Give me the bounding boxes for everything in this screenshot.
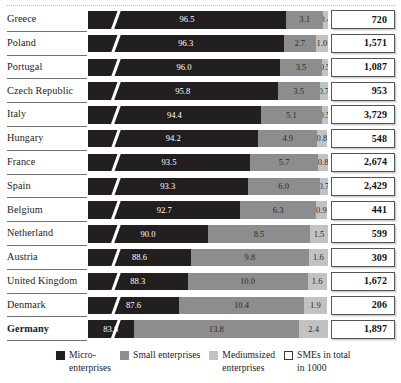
segment-small-value: 5.7	[278, 158, 291, 167]
segment-micro-enterprises: 94.2	[88, 130, 258, 148]
smes-total-box: 2,429	[331, 177, 395, 196]
stacked-bar: 93.55.70.8	[88, 154, 328, 172]
segment-small-value: 10.4	[233, 301, 250, 310]
segment-medium-value: 0.7	[320, 87, 328, 96]
segment-micro-value: 88.3	[129, 277, 146, 286]
country-label-cell: Belgium	[7, 198, 87, 222]
smes-total-value: 1,672	[364, 276, 387, 286]
segment-medium-value: 1.6	[311, 277, 324, 286]
segment-medium-value: 0.5	[322, 63, 328, 72]
segment-small-enterprises: 10.4	[179, 297, 304, 315]
segment-small-value: 6.3	[272, 206, 285, 215]
smes-total-value: 3,729	[364, 110, 387, 120]
segment-micro-enterprises: 92.7	[88, 201, 240, 219]
chart-row: Poland96.32.71.01,571	[0, 32, 401, 56]
axis-break-slash-icon	[110, 154, 122, 172]
segment-medium-value: 1.0	[316, 39, 328, 48]
stacked-bar: 83.813.82.4	[88, 320, 328, 338]
segment-micro-value: 93.3	[159, 182, 176, 191]
segment-small-enterprises: 6.0	[248, 178, 320, 196]
stacked-bar: 90.08.51.5	[88, 225, 328, 243]
stacked-bar: 88.310.01.6	[88, 273, 328, 291]
axis-break-slash-icon	[110, 201, 122, 219]
legend-item: SMEs in total in 1000	[284, 349, 350, 374]
segment-small-value: 3.5	[295, 63, 308, 72]
country-label: Spain	[7, 181, 31, 191]
country-label-cell: United Kingdom	[7, 270, 87, 294]
segment-medium-enterprises: 0.7	[320, 178, 328, 196]
segment-micro-enterprises: 96.0	[88, 59, 280, 77]
smes-total-box: 1,571	[331, 34, 395, 53]
chart-row: France93.55.70.82,674	[0, 151, 401, 175]
chart-row: Spain93.36.00.72,429	[0, 175, 401, 199]
segment-micro-value: 90.0	[139, 230, 156, 239]
segment-micro-value: 92.7	[156, 206, 173, 215]
smes-total-box: 548	[331, 129, 395, 148]
segment-medium-enterprises: 0.8	[317, 130, 327, 148]
smes-total-box: 206	[331, 296, 395, 315]
axis-break-slash-icon	[110, 130, 122, 148]
country-label-cell: Hungary	[7, 127, 87, 151]
segment-small-enterprises: 13.8	[134, 320, 300, 338]
legend-item: Small enterprises	[120, 349, 200, 362]
smes-total-value: 441	[372, 205, 387, 215]
segment-micro-enterprises: 93.5	[88, 154, 250, 172]
smes-total-box: 1,897	[331, 320, 395, 339]
smes-total-box: 720	[331, 10, 395, 29]
country-label-cell: Italy	[7, 103, 87, 127]
smes-total-value: 1,571	[364, 38, 387, 48]
chart-row: Italy94.45.10.53,729	[0, 103, 401, 127]
segment-small-value: 5.1	[285, 111, 298, 120]
segment-small-value: 9.8	[244, 253, 257, 262]
segment-small-enterprises: 9.8	[191, 249, 309, 267]
smes-total-value: 548	[372, 134, 387, 144]
country-label-cell: Czech Republic	[7, 79, 87, 103]
stacked-bar: 88.69.81.6	[88, 249, 328, 267]
legend-label: SMEs in total in 1000	[297, 349, 350, 374]
axis-break-slash-icon	[110, 106, 122, 124]
segment-medium-value: 1.5	[313, 230, 326, 239]
segment-small-enterprises: 3.5	[280, 59, 322, 77]
country-label: Austria	[7, 252, 38, 262]
segment-micro-enterprises: 90.0	[88, 225, 208, 243]
segment-micro-enterprises: 95.8	[88, 82, 278, 100]
segment-medium-enterprises: 0.5	[322, 106, 328, 124]
segment-small-value: 13.8	[208, 325, 225, 334]
segment-medium-enterprises: 1.6	[308, 273, 327, 291]
segment-medium-value: 1.9	[309, 301, 322, 310]
segment-small-value: 8.5	[253, 230, 266, 239]
segment-micro-value: 94.2	[165, 134, 182, 143]
axis-break-slash-icon	[110, 249, 122, 267]
smes-total-box: 3,729	[331, 105, 395, 124]
smes-total-box: 1,087	[331, 58, 395, 77]
segment-medium-enterprises: 1.0	[316, 35, 328, 53]
segment-medium-value: 0.8	[317, 134, 327, 143]
segment-medium-value: 0.4	[323, 15, 328, 24]
axis-break-slash-icon	[110, 11, 122, 29]
stacked-bar: 96.32.71.0	[88, 35, 328, 53]
legend-swatch-icon	[284, 351, 293, 360]
legend-swatch-icon	[120, 351, 129, 360]
legend-swatch-icon	[209, 351, 218, 360]
segment-micro-enterprises: 93.3	[88, 178, 248, 196]
country-label-cell: Denmark	[7, 294, 87, 318]
smes-total-value: 1,897	[364, 324, 387, 334]
smes-total-box: 309	[331, 248, 395, 267]
stacked-bar: 94.45.10.5	[88, 106, 328, 124]
stacked-bar: 94.24.90.8	[88, 130, 328, 148]
segment-micro-value: 95.8	[174, 87, 191, 96]
chart-row: Portugal96.03.50.51,087	[0, 56, 401, 80]
country-label: Belgium	[7, 205, 43, 215]
smes-total-value: 953	[372, 86, 387, 96]
axis-break-slash-icon	[110, 59, 122, 77]
segment-micro-value: 96.0	[175, 63, 192, 72]
segment-small-enterprises: 10.0	[188, 273, 308, 291]
chart-row: Netherland90.08.51.5599	[0, 222, 401, 246]
segment-small-value: 2.7	[293, 39, 306, 48]
legend-label: Mediumsized enterprises	[222, 349, 275, 374]
segment-micro-enterprises: 96.5	[88, 11, 286, 29]
segment-micro-value: 96.5	[178, 15, 195, 24]
segment-small-enterprises: 4.9	[258, 130, 317, 148]
segment-micro-value: 93.5	[160, 158, 177, 167]
segment-medium-enterprises: 0.9	[316, 201, 327, 219]
